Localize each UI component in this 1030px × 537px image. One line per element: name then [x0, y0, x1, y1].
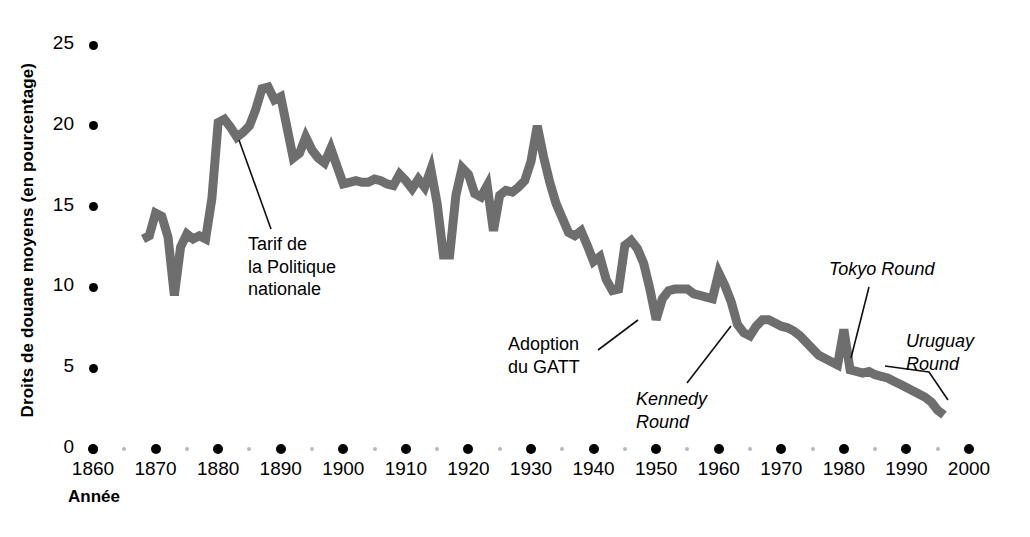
annotation-kennedy-round: Kennedy Round [636, 388, 707, 433]
leader-line-tokyo-round [851, 287, 869, 358]
annotation-tokyo-round: Tokyo Round [829, 258, 934, 281]
annotation-uruguay-round: Uruguay Round [906, 330, 974, 375]
annotation-tarif-politique-nationale: Tarif de la Politique nationale [248, 233, 336, 301]
leader-line-tarif-politique-nationale [239, 140, 271, 229]
leader-line-adoption-gatt [598, 320, 638, 350]
annotation-adoption-gatt: Adoption du GATT [508, 333, 580, 378]
leader-line-kennedy-round [687, 326, 731, 383]
chart-figure: Droits de douane moyens (en pourcentage)… [0, 0, 1030, 537]
